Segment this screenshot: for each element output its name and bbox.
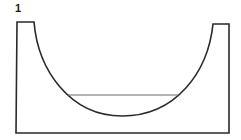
u-block-drawing — [0, 0, 241, 140]
block-outline — [16, 22, 229, 133]
